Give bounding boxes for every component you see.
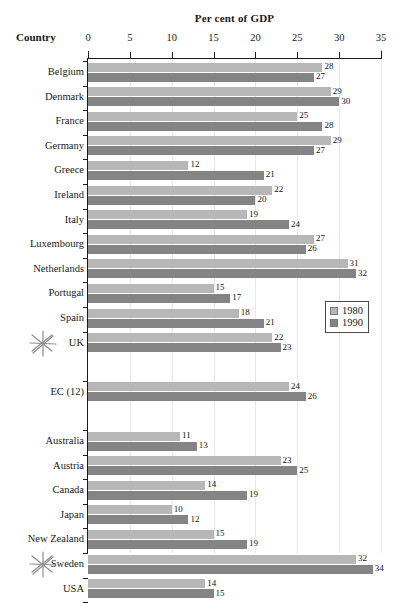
bar-row: Japan1012 [0, 504, 404, 529]
bar-value-label: 12 [190, 159, 199, 169]
bar-1980 [88, 87, 331, 96]
bar-value-label: 15 [216, 588, 225, 598]
bar-1980 [88, 235, 314, 244]
category-label: Netherlands [0, 263, 84, 274]
bar-value-label: 27 [316, 71, 325, 81]
bar-value-label: 19 [249, 489, 258, 499]
x-tick-mark [381, 51, 382, 59]
bar-1980 [88, 481, 205, 490]
x-tick-label: 15 [208, 32, 219, 43]
x-tick-label: 35 [376, 32, 387, 43]
bar-1980 [88, 382, 289, 391]
x-tick-mark [130, 52, 131, 58]
legend-label-1980: 1980 [342, 305, 363, 317]
bar-value-label: 27 [316, 233, 325, 243]
bar-value-label: 18 [241, 307, 250, 317]
category-label: Ireland [0, 189, 84, 200]
bar-value-label: 31 [350, 258, 359, 268]
x-tick-mark [88, 51, 89, 59]
x-tick-label: 0 [85, 32, 90, 43]
category-label: Austria [0, 460, 84, 471]
bar-1990 [88, 122, 322, 131]
legend-label-1990: 1990 [342, 317, 363, 329]
bar-value-label: 15 [216, 282, 225, 292]
bar-1980 [88, 530, 214, 539]
bar-value-label: 10 [174, 504, 183, 514]
bar-row: Belgium2827 [0, 61, 404, 86]
bar-value-label: 32 [358, 268, 367, 278]
bar-value-label: 29 [333, 135, 342, 145]
bar-1980 [88, 505, 172, 514]
bar-1980 [88, 210, 247, 219]
bar-1990 [88, 491, 247, 500]
bar-1990 [88, 146, 314, 155]
bar-1990 [88, 442, 197, 451]
bar-1990 [88, 269, 356, 278]
category-label: Spain [0, 312, 84, 323]
y-axis-title: Country [16, 31, 56, 43]
bar-value-label: 19 [249, 209, 258, 219]
x-tick-mark [214, 52, 215, 58]
bar-value-label: 23 [283, 342, 292, 352]
category-label: EC (12) [0, 386, 84, 397]
category-label: Italy [0, 214, 84, 225]
bar-1980 [88, 309, 239, 318]
bar-row: Germany2927 [0, 135, 404, 160]
bar-value-label: 12 [190, 514, 199, 524]
legend-item-1990: 1990 [330, 317, 363, 329]
bar-row: Ireland2220 [0, 184, 404, 209]
bar-1980 [88, 579, 205, 588]
bar-value-label: 29 [333, 86, 342, 96]
bar-value-label: 17 [232, 292, 241, 302]
bar-row: EC (12)2426 [0, 381, 404, 406]
bar-1990 [88, 392, 306, 401]
bar-row: Denmark2930 [0, 86, 404, 111]
bar-value-label: 23 [283, 455, 292, 465]
bar-value-label: 34 [375, 563, 384, 573]
bar-row: Canada1419 [0, 479, 404, 504]
bar-row: Sweden3234 [0, 553, 404, 578]
legend-swatch-1990 [330, 319, 338, 327]
category-label: Japan [0, 509, 84, 520]
bar-value-label: 25 [299, 465, 308, 475]
bar-row: Netherlands3132 [0, 258, 404, 283]
category-label: Germany [0, 140, 84, 151]
bar-1980 [88, 333, 272, 342]
category-label: Denmark [0, 91, 84, 102]
category-label: UK [0, 337, 84, 348]
bar-1980 [88, 259, 348, 268]
x-tick-mark [172, 52, 173, 58]
bar-value-label: 27 [316, 145, 325, 155]
bar-1990 [88, 540, 247, 549]
bar-value-label: 24 [291, 381, 300, 391]
bar-value-label: 30 [341, 96, 350, 106]
bar-row: Greece1221 [0, 159, 404, 184]
bar-1990 [88, 343, 281, 352]
bar-1990 [88, 97, 339, 106]
bar-value-label: 14 [207, 578, 216, 588]
bar-value-label: 32 [358, 553, 367, 563]
category-label: Belgium [0, 66, 84, 77]
category-label: Portugal [0, 287, 84, 298]
bar-value-label: 21 [266, 169, 275, 179]
bar-value-label: 26 [308, 391, 317, 401]
bar-1980 [88, 284, 214, 293]
bar-1990 [88, 220, 289, 229]
legend-item-1980: 1980 [330, 305, 363, 317]
category-label: France [0, 115, 84, 126]
bar-value-label: 22 [274, 332, 283, 342]
bar-row: USA1415 [0, 578, 404, 603]
bar-1980 [88, 555, 356, 564]
category-label: Canada [0, 484, 84, 495]
bar-value-label: 20 [257, 194, 266, 204]
bar-1990 [88, 565, 373, 574]
bar-1990 [88, 466, 297, 475]
bar-value-label: 25 [299, 110, 308, 120]
x-tick-label: 30 [334, 32, 345, 43]
bar-value-label: 11 [182, 430, 191, 440]
bar-row: Italy1924 [0, 209, 404, 234]
x-tick-mark [297, 52, 298, 58]
bar-row: New Zealand1519 [0, 528, 404, 553]
category-label: Australia [0, 435, 84, 446]
bar-1980 [88, 136, 331, 145]
